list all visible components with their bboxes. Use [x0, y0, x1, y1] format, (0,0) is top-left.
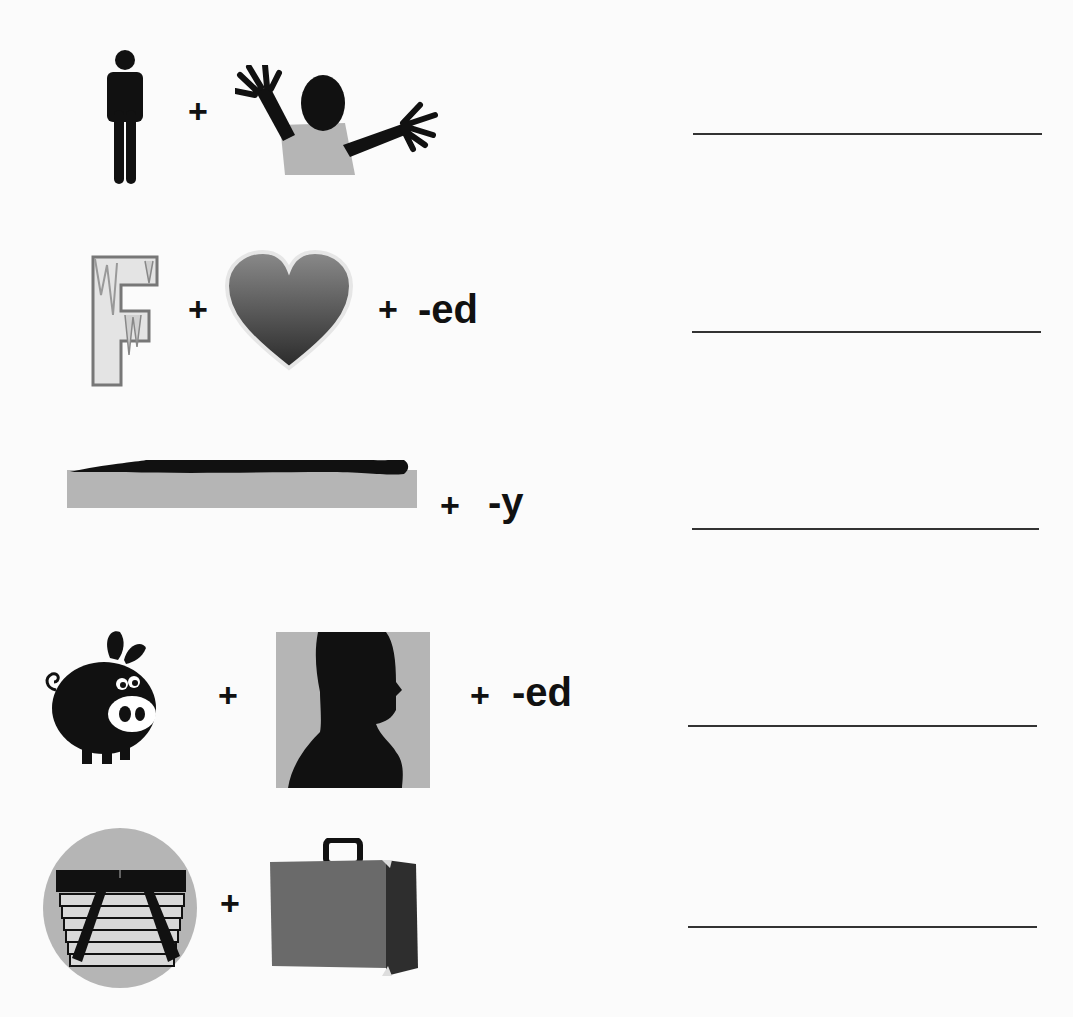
child-waving-icon: [235, 65, 440, 175]
frozen-letter-f-icon: [85, 255, 165, 388]
suffix-text: -ed: [418, 289, 478, 329]
answer-line-4[interactable]: [688, 725, 1037, 727]
row-2: + + -ed: [0, 200, 1073, 400]
suffix-text: -ed: [512, 672, 572, 712]
heart-icon: [225, 250, 353, 372]
answer-line-3[interactable]: [692, 528, 1039, 530]
plus-sign: +: [378, 292, 398, 326]
row-4: + + -ed: [0, 580, 1073, 800]
answer-line-5[interactable]: [688, 926, 1037, 928]
plus-sign: +: [440, 488, 460, 522]
answer-line-2[interactable]: [692, 331, 1041, 333]
suitcase-icon: [268, 838, 420, 978]
plus-sign: +: [220, 886, 240, 920]
plus-sign: +: [188, 94, 208, 128]
answer-line-1[interactable]: [693, 133, 1042, 135]
suffix-text: -y: [488, 482, 524, 522]
row-1: +: [0, 0, 1073, 200]
row-3: + -y: [0, 400, 1073, 580]
man-icon: [105, 50, 145, 186]
plus-sign: +: [470, 678, 490, 712]
person-lying-down-icon: [66, 460, 418, 552]
pig-icon: [42, 628, 162, 768]
head-silhouette-icon: [276, 632, 430, 788]
plus-sign: +: [218, 678, 238, 712]
row-5: +: [0, 800, 1073, 1017]
picnic-basket-icon: [42, 828, 198, 988]
plus-sign: +: [188, 292, 208, 326]
